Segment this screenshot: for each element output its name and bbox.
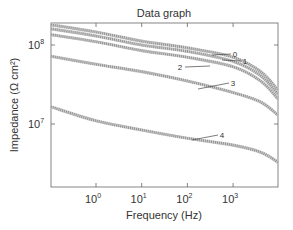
x-tick-label: 100 <box>85 192 101 205</box>
curve-label-1: 1 <box>243 57 248 66</box>
y-tick-label: 108 <box>28 38 44 51</box>
x-axis-label: Frequency (Hz) <box>126 209 202 221</box>
x-axis-ticks: 100101102103 <box>85 23 238 205</box>
curve-label-3: 3 <box>231 79 236 88</box>
curve-label-4: 4 <box>220 131 225 140</box>
curve-label-0: 0 <box>233 50 238 59</box>
chart-title: Data graph <box>137 7 191 19</box>
x-tick-label: 103 <box>222 192 238 205</box>
x-tick-label: 101 <box>131 192 147 205</box>
series-4-band <box>51 107 278 162</box>
curve-label-2: 2 <box>178 63 183 72</box>
y-tick-label: 107 <box>28 117 44 130</box>
data-series <box>51 25 278 162</box>
y-axis-label: Impedance (Ω cm²) <box>8 58 20 152</box>
x-tick-label: 102 <box>176 192 192 205</box>
impedance-chart: Data graph 100101102103 107108 01234 Fre… <box>0 0 293 230</box>
